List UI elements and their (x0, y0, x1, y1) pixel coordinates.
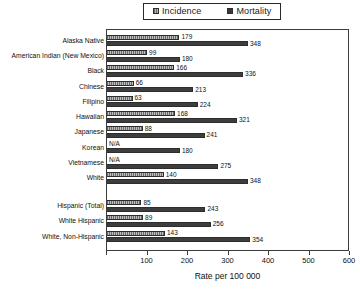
x-tick-label: 600 (343, 256, 356, 265)
legend-swatch-incidence (153, 8, 159, 14)
legend-entry-incidence: Incidence (153, 6, 201, 16)
bar-group: 63224 (107, 95, 348, 109)
bar-mortality (107, 237, 250, 242)
bar-incidence (107, 65, 174, 70)
bar-value-label: N/A (109, 157, 120, 163)
bar-mortality (107, 222, 211, 227)
bar-mortality (107, 87, 193, 92)
bar-value-label: 168 (177, 111, 188, 117)
chart-legend: Incidence Mortality (143, 3, 281, 20)
bar-value-label: 224 (200, 102, 211, 108)
bar-incidence (107, 231, 165, 236)
bar-group: 140348 (107, 171, 348, 185)
bar-mortality (107, 148, 180, 153)
legend-swatch-mortality (227, 8, 233, 14)
bar-rows: 17934899180166336662136322416832188241N/… (107, 30, 348, 250)
legend-label-incidence: Incidence (162, 6, 201, 16)
bar-mortality (107, 57, 180, 62)
category-label: Japanese (75, 128, 104, 135)
category-label: Korean (82, 144, 104, 151)
bar-group: 166336 (107, 64, 348, 78)
x-tick-label: 300 (221, 256, 234, 265)
x-tick-label: 100 (140, 256, 153, 265)
category-label: Alaska Native (62, 37, 104, 44)
bar-mortality (107, 164, 218, 169)
bar-group: 168321 (107, 110, 348, 124)
bar-value-label: 85 (143, 200, 150, 206)
bar-incidence (107, 172, 164, 177)
category-label: Hawaiian (76, 113, 104, 120)
bar-group: 99180 (107, 49, 348, 63)
bar-value-label: 275 (220, 163, 231, 169)
bar-value-label: 243 (207, 206, 218, 212)
bar-value-label: 241 (207, 132, 218, 138)
bar-group: 89256 (107, 214, 348, 228)
category-label: Black (87, 67, 104, 74)
bar-incidence (107, 96, 133, 101)
bar-value-label: 88 (145, 126, 152, 132)
category-label: Filipino (82, 98, 104, 105)
bar-group: 88241 (107, 125, 348, 139)
bar-incidence (107, 126, 143, 131)
x-tick (228, 251, 229, 255)
bar-value-label: 89 (145, 215, 152, 221)
bar-value-label: 180 (182, 56, 193, 62)
bar-mortality (107, 179, 248, 184)
bar-incidence (107, 81, 134, 86)
bar-mortality (107, 102, 198, 107)
category-label: White (87, 174, 104, 181)
bar-value-label: 256 (213, 221, 224, 227)
bar-value-label: 354 (252, 237, 263, 243)
bar-value-label: 143 (167, 230, 178, 236)
bar-group: N/A275 (107, 156, 348, 170)
bar-mortality (107, 207, 205, 212)
bar-value-label: 166 (176, 65, 187, 71)
x-tick-label: 400 (262, 256, 275, 265)
x-axis-title: Rate per 100 000 (106, 271, 349, 281)
category-label: Chinese (79, 83, 104, 90)
bar-chart: Incidence Mortality 17934899180166336662… (0, 0, 360, 289)
bar-value-label: 63 (135, 95, 142, 101)
x-tick-label: 200 (181, 256, 194, 265)
x-tick (147, 251, 148, 255)
bar-incidence (107, 35, 179, 40)
bar-mortality (107, 72, 243, 77)
bar-value-label: 348 (250, 178, 261, 184)
bar-mortality (107, 133, 205, 138)
bar-incidence (107, 215, 143, 220)
bar-value-label: N/A (109, 141, 120, 147)
bar-mortality (107, 41, 248, 46)
x-tick (349, 251, 350, 255)
bar-value-label: 321 (239, 117, 250, 123)
bar-value-label: 180 (182, 148, 193, 154)
legend-entry-mortality: Mortality (227, 6, 271, 16)
x-tick (106, 251, 107, 255)
bar-value-label: 99 (149, 50, 156, 56)
x-tick-label: 500 (302, 256, 315, 265)
bar-group: 85243 (107, 199, 348, 213)
bar-group: 143354 (107, 230, 348, 244)
category-label: Hispanic (Total) (57, 202, 104, 209)
bar-value-label: 336 (245, 71, 256, 77)
bar-value-label: 66 (136, 80, 143, 86)
bar-mortality (107, 118, 237, 123)
category-label: White Hispanic (59, 217, 104, 224)
bar-group: N/A180 (107, 141, 348, 155)
legend-label-mortality: Mortality (236, 6, 271, 16)
bar-group: 66213 (107, 80, 348, 94)
bar-incidence (107, 50, 147, 55)
bar-incidence (107, 200, 141, 205)
category-label: Vietnamese (68, 159, 104, 166)
x-tick (187, 251, 188, 255)
x-tick (268, 251, 269, 255)
x-tick (309, 251, 310, 255)
bar-value-label: 140 (166, 172, 177, 178)
bar-value-label: 213 (195, 87, 206, 93)
bar-value-label: 179 (181, 34, 192, 40)
bar-group: 179348 (107, 34, 348, 48)
bar-value-label: 348 (250, 41, 261, 47)
category-label: American Indian (New Mexico) (11, 52, 104, 59)
bar-incidence (107, 111, 175, 116)
plot-area: 17934899180166336662136322416832188241N/… (106, 29, 349, 251)
category-label: White, Non-Hispanic (42, 233, 104, 240)
